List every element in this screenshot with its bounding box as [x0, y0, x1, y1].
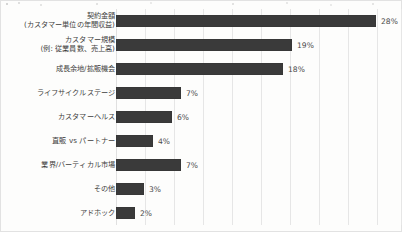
scan-artifact-speckle — [1, 1, 402, 8]
bar-row: その他3% — [1, 177, 402, 201]
bar — [116, 111, 172, 123]
bar-row-list: 契約金額 (カスタマー単位の年間収益)28%カスタマー規模 (例: 従業員数、売… — [1, 9, 402, 225]
bar-row: 直販 vs パートナー4% — [1, 129, 402, 153]
category-label: カスタマーヘルス — [0, 113, 115, 122]
bar-value-label: 7% — [186, 161, 198, 170]
bar-and-value: 18% — [116, 63, 305, 75]
bar-chart: 契約金額 (カスタマー単位の年間収益)28%カスタマー規模 (例: 従業員数、売… — [0, 0, 402, 232]
bar-value-label: 7% — [186, 89, 198, 98]
bar-and-value: 4% — [116, 135, 170, 147]
bar-value-label: 4% — [158, 137, 170, 146]
category-label: 成長余地/拡販機会 — [0, 65, 115, 74]
category-label: 契約金額 (カスタマー単位の年間収益) — [0, 12, 115, 29]
bar-value-label: 19% — [297, 41, 314, 50]
category-label: アドホック — [0, 209, 115, 218]
bar-row: アドホック2% — [1, 201, 402, 225]
bar — [116, 39, 292, 51]
bar — [116, 87, 181, 99]
bar-row: カスタマーヘルス6% — [1, 105, 402, 129]
bar-value-label: 3% — [149, 185, 161, 194]
bar-row: 業界/バーティカル市場7% — [1, 153, 402, 177]
bar-and-value: 19% — [116, 39, 314, 51]
bar-row: カスタマー規模 (例: 従業員数、売上高)19% — [1, 33, 402, 57]
bar — [116, 15, 376, 27]
bar-and-value: 6% — [116, 111, 189, 123]
bar — [116, 183, 144, 195]
category-label: ライフサイクルステージ — [0, 89, 115, 98]
bar — [116, 207, 135, 219]
bar-and-value: 7% — [116, 159, 198, 171]
bar-value-label: 2% — [140, 209, 152, 218]
bar-row: 成長余地/拡販機会18% — [1, 57, 402, 81]
bar-row: 契約金額 (カスタマー単位の年間収益)28% — [1, 9, 402, 33]
bar — [116, 159, 181, 171]
category-label: その他 — [0, 185, 115, 194]
bar-and-value: 28% — [116, 15, 398, 27]
category-label: カスタマー規模 (例: 従業員数、売上高) — [0, 36, 115, 53]
bar-and-value: 2% — [116, 207, 152, 219]
bar-row: ライフサイクルステージ7% — [1, 81, 402, 105]
bar-value-label: 18% — [288, 65, 305, 74]
bar-value-label: 28% — [381, 17, 398, 26]
category-label: 直販 vs パートナー — [0, 137, 115, 146]
bar — [116, 135, 153, 147]
bar-and-value: 7% — [116, 87, 198, 99]
bar-value-label: 6% — [177, 113, 189, 122]
category-label: 業界/バーティカル市場 — [0, 161, 115, 170]
bar — [116, 63, 283, 75]
bar-and-value: 3% — [116, 183, 161, 195]
